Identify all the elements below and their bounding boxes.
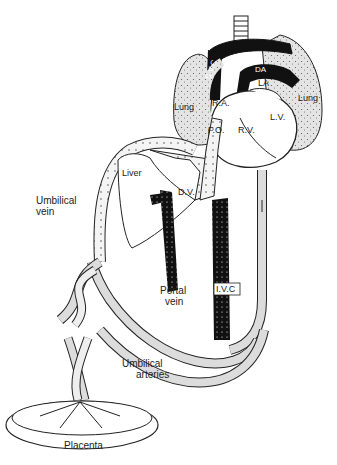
umbilical-arteries bbox=[92, 262, 264, 383]
label-portal-vein-2: vein bbox=[165, 296, 183, 307]
label-umbilical-vein-2: vein bbox=[36, 206, 54, 217]
label-rv: R.V. bbox=[238, 125, 255, 135]
trachea bbox=[234, 16, 248, 42]
label-da: DA bbox=[255, 65, 267, 74]
label-umbilical-arteries-1: Umbilical bbox=[122, 358, 163, 369]
fetal-circulation-diagram: S.V.C DA LA R.A. F.O. R.V. L.V. Lung Lun… bbox=[0, 0, 337, 465]
ivc-vessel bbox=[212, 198, 230, 340]
label-umbilical-arteries-2: arteries bbox=[136, 369, 169, 380]
descending-aorta bbox=[230, 170, 262, 350]
umbilical-cord-lower bbox=[68, 338, 88, 400]
umbilical-cord-upper bbox=[60, 262, 100, 325]
label-la: LA bbox=[258, 78, 269, 88]
label-umbilical-vein-1: Umbilical bbox=[36, 195, 77, 206]
label-placenta: Placenta bbox=[64, 440, 103, 451]
label-portal-vein-1: Portal bbox=[160, 285, 186, 296]
label-dv: D.V. bbox=[178, 187, 195, 197]
label-lung-right: Lung bbox=[298, 93, 318, 103]
label-ivc: I.V.C bbox=[216, 284, 236, 294]
label-lung-left: Lung bbox=[174, 102, 194, 112]
label-ra: R.A. bbox=[212, 98, 230, 108]
label-lv: L.V. bbox=[270, 112, 285, 122]
label-fo: F.O. bbox=[208, 125, 225, 135]
label-liver: Liver bbox=[122, 168, 142, 178]
